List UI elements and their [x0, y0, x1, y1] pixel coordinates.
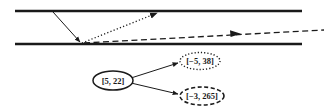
edge-root-to-child-2: [131, 83, 178, 94]
edge-root-to-child-1: [131, 63, 178, 78]
reflected-ray: [82, 13, 157, 43]
tree-child-node-dashed: [−3, 265]: [180, 87, 224, 105]
child-2-label: [−3, 265]: [186, 91, 218, 101]
tree-root-node: [5, 22]: [93, 71, 133, 90]
transmitted-arrowhead: [230, 30, 241, 37]
transmitted-ray: [84, 30, 324, 43]
root-label: [5, 22]: [102, 76, 125, 86]
tree-child-node-dotted: [−5, 38]: [180, 53, 220, 70]
child-1-label: [−5, 38]: [186, 56, 214, 66]
reflection-diagram: [5, 22] [−5, 38] [−3, 265]: [0, 0, 324, 112]
incident-ray: [53, 12, 80, 42]
